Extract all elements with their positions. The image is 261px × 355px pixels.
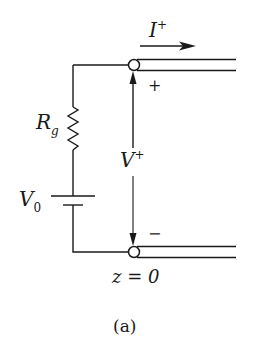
- resistor-rg: [68, 107, 78, 150]
- minus-terminal-label: −: [148, 226, 161, 242]
- plus-terminal-label: +: [148, 78, 161, 94]
- position-text: z = 0: [112, 266, 159, 287]
- voltage-arrowhead-down-icon: [130, 233, 137, 246]
- circuit-diagram: [0, 0, 261, 355]
- voltage-arrowhead-up-icon: [130, 71, 137, 84]
- resistor-label: Rg: [36, 112, 59, 132]
- source-voltage-label: V0: [19, 189, 41, 209]
- current-label: I+: [149, 20, 167, 40]
- bottom-terminal-node: [129, 247, 140, 258]
- top-terminal-node: [129, 60, 140, 71]
- position-label: z = 0: [112, 268, 159, 286]
- left-wire-lower: [73, 205, 129, 252]
- figure-caption: (a): [113, 318, 136, 335]
- line-voltage-label: V+: [120, 150, 145, 170]
